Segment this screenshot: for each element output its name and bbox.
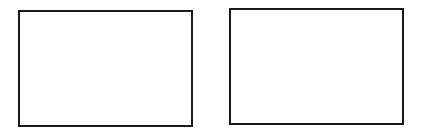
empty-box-right bbox=[229, 8, 404, 125]
empty-box-left bbox=[18, 10, 193, 127]
